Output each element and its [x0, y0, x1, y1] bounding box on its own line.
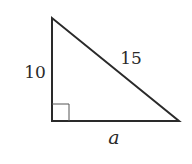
triangle-diagram: 10 15 a [0, 0, 192, 164]
horizontal-leg-label: a [108, 126, 119, 148]
hypotenuse-label: 15 [120, 48, 142, 68]
right-angle-marker [52, 104, 69, 121]
vertical-leg-label: 10 [24, 62, 46, 82]
right-triangle [52, 18, 179, 121]
